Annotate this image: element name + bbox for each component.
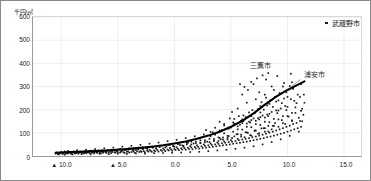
chart-canvas — [33, 17, 361, 156]
negative-triangle-icon: ▲ — [51, 162, 59, 168]
x-tick-label: 5.0 — [228, 161, 237, 169]
annotation-mitaka: 三鷹市 — [250, 60, 271, 70]
negative-triangle-icon: ▲ — [110, 162, 118, 168]
y-tick-label: 100 — [4, 130, 30, 137]
plot-area — [32, 16, 362, 157]
y-tick-label: 400 — [4, 60, 30, 67]
y-tick-label: 500 — [4, 36, 30, 43]
chart-figure: 千円/㎡ 6005004003002001000 ▲ 10.0▲ 5.00.05… — [0, 0, 371, 181]
y-tick-label: 600 — [4, 13, 30, 20]
x-axis-tick-labels: ▲ 10.0▲ 5.00.05.010.015.0 — [32, 161, 370, 175]
x-tick-label: ▲ 10.0 — [51, 161, 71, 169]
y-axis-tick-labels: 6005004003002001000 — [1, 16, 30, 157]
legend-label: 武蔵野市 — [332, 18, 360, 28]
legend-marker-icon — [325, 22, 328, 25]
annotation-urayasu: 浦安市 — [304, 69, 325, 79]
x-tick-label: 10.0 — [283, 161, 296, 169]
y-tick-label: 200 — [4, 107, 30, 114]
x-tick-label: 15.0 — [340, 161, 353, 169]
y-tick-label: 300 — [4, 83, 30, 90]
x-tick-label: ▲ 5.0 — [110, 161, 127, 169]
chart-legend: 武蔵野市 — [325, 18, 360, 28]
y-tick-label: 0 — [4, 154, 30, 161]
x-tick-label: 0.0 — [171, 161, 180, 169]
